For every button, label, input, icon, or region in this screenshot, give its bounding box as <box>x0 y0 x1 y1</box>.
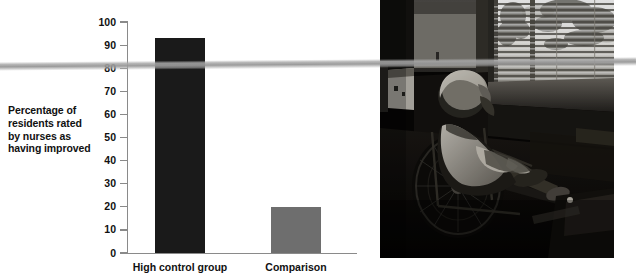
y-tick-label: 100 <box>86 17 116 28</box>
bar-high-control-group <box>155 38 205 253</box>
y-tick-mark <box>120 183 127 184</box>
x-axis-line <box>127 253 357 254</box>
y-tick-label: 90 <box>86 40 116 51</box>
y-tick-label: 50 <box>86 132 116 143</box>
nursing-home-photo <box>380 0 614 258</box>
y-tick-mark <box>120 45 127 46</box>
y-tick-mark <box>120 229 127 230</box>
y-tick-mark <box>120 114 127 115</box>
y-tick-mark <box>120 137 127 138</box>
y-tick-label: 0 <box>86 248 116 259</box>
y-tick-mark <box>120 206 127 207</box>
y-tick-label: 80 <box>86 63 116 74</box>
photo-illustration <box>380 0 614 258</box>
plot-area <box>128 22 357 253</box>
bar-chart: Percentage of residents rated by nurses … <box>0 0 374 280</box>
category-label: Comparison <box>236 261 356 273</box>
y-tick-label: 30 <box>86 178 116 189</box>
y-tick-mark <box>120 68 127 69</box>
y-tick-label: 70 <box>86 86 116 97</box>
y-tick-mark <box>120 21 127 22</box>
y-tick-label: 10 <box>86 224 116 235</box>
y-tick-mark <box>120 160 127 161</box>
y-tick-label: 20 <box>86 201 116 212</box>
y-tick-mark <box>120 252 127 253</box>
y-axis-title-line-4: having improved <box>8 142 100 155</box>
bar-comparison <box>271 207 321 253</box>
y-tick-label: 60 <box>86 109 116 120</box>
y-tick-label: 40 <box>86 155 116 166</box>
category-label: High control group <box>120 261 240 273</box>
y-tick-mark <box>120 91 127 92</box>
